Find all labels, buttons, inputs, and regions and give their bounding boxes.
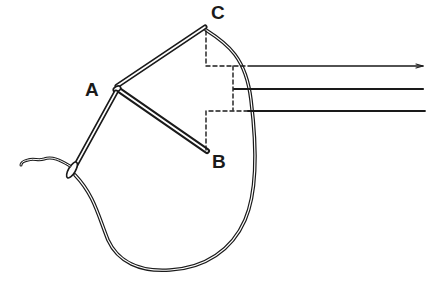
label-a: A bbox=[85, 80, 99, 99]
rod-a-c bbox=[117, 27, 205, 86]
diagram-canvas bbox=[0, 0, 435, 285]
label-c: C bbox=[211, 3, 225, 22]
label-b: B bbox=[212, 152, 226, 171]
rod-a-b bbox=[119, 90, 207, 151]
dashed-construction bbox=[206, 31, 248, 150]
handle-rod bbox=[72, 92, 116, 172]
horizontal-lines bbox=[234, 64, 425, 111]
